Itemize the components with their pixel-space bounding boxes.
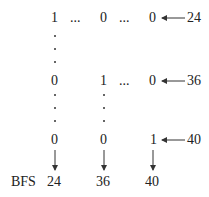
cell-r2-c1: 0	[51, 74, 58, 88]
bfs-value-2: 36	[96, 175, 110, 189]
cell-r1-c3: 0	[149, 11, 156, 25]
vdot	[54, 48, 56, 50]
vdot	[54, 120, 56, 122]
vdot	[54, 94, 56, 96]
ellipsis: ...	[119, 11, 130, 25]
bfs-label: BFS	[11, 175, 36, 189]
row-label-2: 36	[187, 74, 201, 88]
vdot	[54, 61, 56, 63]
ellipsis: ...	[119, 74, 130, 88]
vdot	[103, 120, 105, 122]
row-label-1: 24	[187, 11, 201, 25]
cell-r3-c1: 0	[51, 133, 58, 147]
bfs-value-1: 24	[47, 175, 61, 189]
vdot	[103, 107, 105, 109]
bfs-value-3: 40	[145, 175, 159, 189]
cell-r1-c1: 1	[51, 11, 58, 25]
cell-r3-c2: 0	[100, 133, 107, 147]
arrows	[0, 0, 209, 197]
cell-r1-c2: 0	[100, 11, 107, 25]
cell-r2-c2: 1	[100, 74, 107, 88]
ellipsis: ...	[70, 11, 81, 25]
vdot	[54, 35, 56, 37]
row-label-3: 40	[187, 133, 201, 147]
vdot	[54, 107, 56, 109]
cell-r3-c3: 1	[150, 133, 157, 147]
vdot	[103, 94, 105, 96]
cell-r2-c3: 0	[149, 74, 156, 88]
